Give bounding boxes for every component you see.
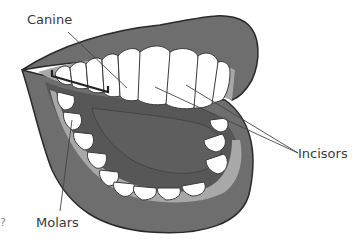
mouth-diagram: Canine Incisors Molars ? (0, 0, 354, 243)
canine-label: Canine (27, 12, 72, 27)
mouth-illustration (0, 0, 354, 243)
upper-incisor (138, 46, 171, 105)
incisors-label: Incisors (298, 146, 348, 161)
edge-text-fragment: ? (0, 216, 6, 229)
molars-label: Molars (36, 215, 79, 230)
